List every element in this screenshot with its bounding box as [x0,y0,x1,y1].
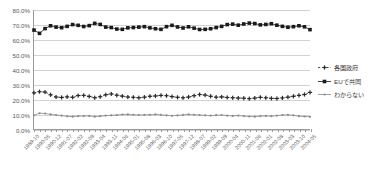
data-point [220,25,224,29]
x-axis-tick [112,129,113,132]
x-axis-tick [139,129,140,132]
data-point [83,115,85,117]
x-axis-tick [89,129,90,132]
y-axis-tick-label: 70.0% [12,22,30,29]
x-axis-tick [34,129,35,132]
data-point [281,25,285,29]
data-point [259,115,261,117]
x-axis-tick [278,129,279,132]
x-axis-tick [128,129,129,132]
x-axis-tick [173,129,174,132]
data-point [264,96,268,100]
x-axis-tick [305,129,306,132]
data-point [61,115,63,117]
data-point [265,115,267,117]
data-point [270,22,274,26]
data-point [214,26,218,30]
x-axis-tick [45,129,46,132]
data-point [105,115,107,117]
data-point [66,115,68,117]
data-point [98,23,102,27]
data-point [286,95,290,99]
x-axis-tick [117,129,118,132]
data-point [253,22,257,26]
y-axis-tick-label: 30.0% [12,82,30,89]
data-point [210,115,212,117]
data-point [214,95,218,99]
data-point [93,96,97,100]
data-point [82,25,86,29]
x-axis-tick [178,129,179,132]
data-point [298,115,300,117]
legend-swatch [318,64,331,71]
data-point [170,24,174,28]
data-point [181,96,185,100]
data-point [253,96,257,100]
data-point [280,96,284,100]
data-point [170,94,174,98]
data-point [258,95,262,99]
x-axis-tick [161,129,162,132]
data-point [49,24,53,28]
legend-label: わからない [334,90,364,99]
y-axis-tick-label: 80.0% [12,7,30,14]
data-point [94,116,96,118]
data-point [137,25,141,29]
legend-item-0[interactable]: 各国政府 [318,63,364,72]
data-point [203,28,207,32]
data-point [148,94,152,98]
data-point [98,95,102,99]
data-point [148,26,152,30]
data-point [220,95,224,99]
data-point [49,113,51,115]
legend-item-2[interactable]: わからない [318,90,364,99]
plot-area: 0.0%10.0%20.0%30.0%40.0%50.0%60.0%70.0%8… [33,10,310,130]
legend-swatch [318,91,331,98]
x-axis-tick [267,129,268,132]
x-axis-tick [222,129,223,132]
data-point [199,114,201,116]
x-axis-tick [100,129,101,132]
data-point [138,114,140,116]
y-axis-tick-label: 0.0% [16,127,30,134]
y-axis-tick-label: 40.0% [12,67,30,74]
data-point [181,26,185,30]
data-point [109,26,113,30]
x-axis-tick [250,129,251,132]
data-point [193,114,195,116]
data-point [165,114,167,116]
data-point [292,25,296,29]
data-point [242,96,246,100]
series-2 [33,112,311,118]
x-axis-tick [195,129,196,132]
data-point [60,95,64,99]
legend-label: 各国政府 [334,63,358,72]
data-point [127,113,129,115]
data-point [38,112,40,114]
x-axis-tick [233,129,234,132]
data-point [254,116,256,118]
data-point [132,26,136,30]
legend-swatch [318,78,331,85]
data-point [93,22,97,26]
x-axis-tick [206,129,207,132]
x-axis-tick [67,129,68,132]
data-point [60,26,64,30]
data-point [209,27,213,31]
data-point [182,114,184,116]
data-point [236,96,240,100]
y-axis-tick-label: 60.0% [12,37,30,44]
data-point [204,114,206,116]
data-point [308,90,312,94]
data-point [154,113,156,115]
x-axis-tick [211,129,212,132]
data-point [175,95,179,99]
data-point [247,97,251,101]
data-point [38,32,42,36]
series-1 [32,90,312,101]
data-point [242,22,246,26]
data-point [270,115,272,117]
data-point [231,96,235,100]
x-axis-tick [150,129,151,132]
legend-item-1[interactable]: EUで共同 [318,77,364,86]
